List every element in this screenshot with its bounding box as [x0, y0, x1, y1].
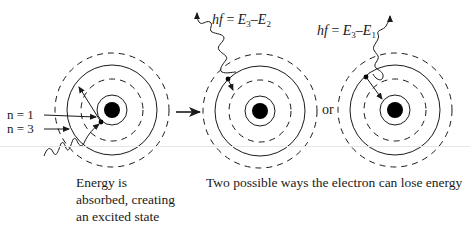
equation-e3-e1: hf = E3–E1 [317, 23, 376, 40]
eq-equals: = [223, 12, 238, 27]
label-n3: n = 3 [7, 121, 34, 137]
atom-emission-e3-e1 [338, 53, 452, 167]
equation-e3-e2: hf = E3–E2 [212, 12, 271, 29]
eq-sub-b: 1 [371, 30, 376, 40]
n1-pointer-arrow [44, 115, 96, 117]
caption-absorption: Energy is absorbed, creating an excited … [76, 174, 175, 225]
caption-line-3: an excited state [76, 208, 175, 225]
eq-lhs: hf [212, 12, 223, 27]
decay-arrow-n3-to-n2 [228, 79, 233, 90]
scan-line-artifact [0, 146, 470, 147]
eq-sub-b: 2 [266, 19, 271, 29]
atom-absorbing [55, 53, 169, 167]
eq-lhs: hf [317, 23, 328, 38]
atom-diagram [0, 0, 470, 231]
eq-minus: – [251, 12, 258, 27]
eq-minus: – [356, 23, 363, 38]
caption-line-2: absorbed, creating [76, 191, 175, 208]
connector-or: or [322, 102, 334, 118]
caption-line-1: Energy is [76, 174, 175, 191]
nucleus [104, 102, 120, 118]
eq-equals: = [328, 23, 343, 38]
atom-emission-e3-e2 [203, 54, 317, 168]
caption-emission: Two possible ways the electron can lose … [206, 174, 462, 191]
